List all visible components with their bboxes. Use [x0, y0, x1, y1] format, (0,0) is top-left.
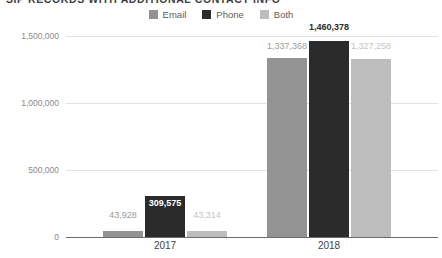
y-tick-label-0: 0 — [0, 233, 59, 242]
x-axis-label-2017: 2017 — [135, 241, 195, 251]
plot-area: 1,500,000 1,000,000 500,000 0 43,928 309… — [0, 0, 442, 258]
bar-label-2018-phone: 1,460,378 — [294, 23, 364, 32]
bar-2017-both[interactable] — [187, 231, 227, 237]
y-tick-label-1500000: 1,500,000 — [0, 32, 59, 41]
y-tick-label-500000: 500,000 — [0, 166, 59, 175]
bar-label-2017-email: 43,928 — [93, 211, 153, 220]
bar-2018-phone[interactable] — [309, 41, 349, 237]
bar-label-2018-both: 1,327,258 — [336, 42, 406, 51]
x-axis-label-2018: 2018 — [299, 241, 359, 251]
bar-chart: SIP RECORDS WITH ADDITIONAL CONTACT INFO… — [0, 0, 442, 258]
x-axis-line — [66, 237, 438, 238]
bar-label-2017-phone: 309,575 — [135, 199, 195, 208]
bar-2017-email[interactable] — [103, 231, 143, 237]
bar-2018-email[interactable] — [267, 58, 307, 237]
bar-label-2017-both: 43,314 — [177, 211, 237, 220]
bar-2018-both[interactable] — [351, 59, 391, 237]
gridline-1500000 — [66, 36, 438, 37]
y-tick-label-1000000: 1,000,000 — [0, 99, 59, 108]
